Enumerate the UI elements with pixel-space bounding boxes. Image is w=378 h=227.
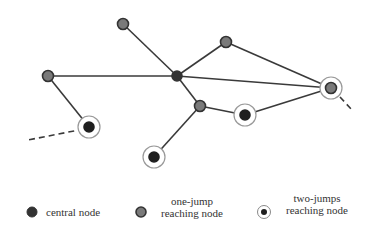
- node-one-jump: [118, 19, 129, 30]
- node-one-jump: [43, 71, 54, 82]
- legend-central-node-icon: [27, 207, 37, 217]
- edge: [245, 88, 331, 115]
- dashed-stubs-layer: [28, 97, 352, 140]
- edge: [177, 42, 226, 76]
- node-one-jump: [320, 77, 342, 99]
- legend-central-label: central node: [46, 206, 118, 218]
- node-dot-icon: [240, 110, 250, 120]
- node-one-jump: [195, 101, 206, 112]
- node-dot-icon: [172, 71, 182, 81]
- legend-one-jump-line2: reaching node: [150, 207, 234, 219]
- dashed-edge: [28, 129, 84, 140]
- node-central: [172, 71, 182, 81]
- node-dot-icon: [221, 37, 232, 48]
- node-two-jumps: [78, 116, 100, 138]
- node-dot-icon: [43, 71, 54, 82]
- node-dot-icon: [326, 83, 337, 94]
- node-dot-icon: [149, 152, 159, 162]
- node-dot-icon: [118, 19, 129, 30]
- nodes-layer: [43, 19, 343, 169]
- node-dot-icon: [195, 101, 206, 112]
- node-dot-icon: [84, 122, 94, 132]
- legend-two-jumps-line1: two-jumps: [275, 192, 359, 204]
- legend-two-jumps-node-icon: [261, 209, 267, 215]
- legend-two-jumps-label: two-jumps reaching node: [275, 192, 359, 216]
- node-one-jump: [221, 37, 232, 48]
- legend-one-jump-node-icon: [136, 207, 146, 217]
- node-two-jumps: [143, 146, 165, 168]
- node-two-jumps: [234, 104, 256, 126]
- dashed-edge: [340, 97, 352, 110]
- legend-one-jump-label: one-jump reaching node: [150, 195, 234, 219]
- legend-one-jump-line1: one-jump: [150, 195, 234, 207]
- edge: [123, 24, 177, 76]
- legend-two-jumps-line2: reaching node: [275, 204, 359, 216]
